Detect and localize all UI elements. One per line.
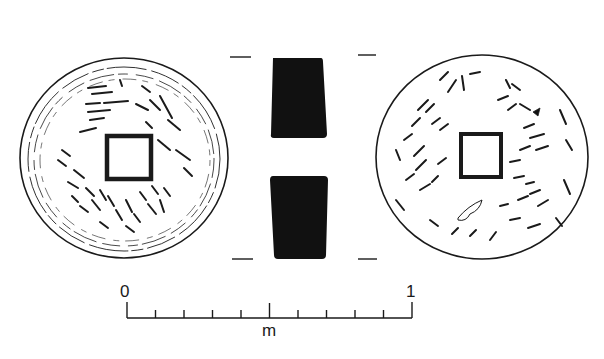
obverse-square-hole [107, 136, 151, 179]
reverse-square-hole [461, 134, 501, 177]
section-upper-block [271, 58, 327, 138]
coin-drawing [0, 0, 604, 359]
scale-start-label: 0 [120, 283, 129, 300]
scale-unit-label: m [262, 322, 276, 339]
obverse-coin [20, 58, 228, 258]
section-lower-block [270, 176, 328, 259]
scale-end-label: 1 [406, 283, 415, 300]
scale-bar [127, 302, 412, 318]
reverse-coin [376, 55, 588, 259]
